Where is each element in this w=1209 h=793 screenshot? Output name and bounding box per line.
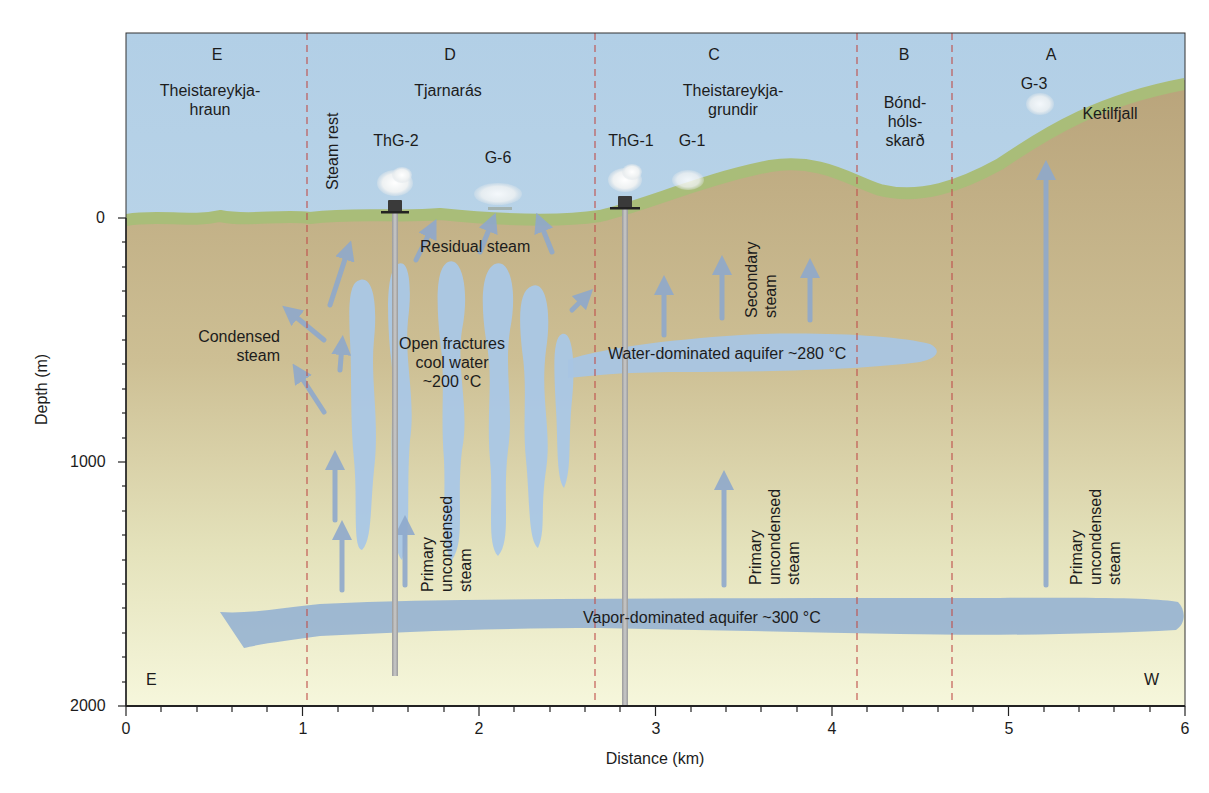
x-tick-3: 3 (652, 720, 661, 738)
well-label-thg-2: ThG-2 (373, 131, 418, 150)
condensed-steam-label: Condensed steam (176, 327, 280, 365)
y-tick-0: 0 (96, 209, 105, 227)
fumarole-label-g-6: G-6 (485, 148, 512, 167)
water-aquifer-label: Water-dominated aquifer ~280 °C (608, 344, 846, 363)
x-axis-ticks (126, 706, 1185, 716)
zone-name-c: Theistareykja- grundir (683, 81, 783, 119)
direction-east: E (146, 670, 157, 689)
x-tick-5: 5 (1005, 720, 1014, 738)
steam-rest-label: Steam rest (323, 113, 342, 190)
direction-west: W (1144, 670, 1159, 689)
x-tick-0: 0 (122, 720, 131, 738)
fumarole-label-g-1: G-1 (679, 131, 706, 150)
y-tick-1000: 1000 (70, 453, 106, 471)
x-tick-1: 1 (299, 720, 308, 738)
x-tick-4: 4 (828, 720, 837, 738)
x-axis-title: Distance (km) (606, 750, 705, 768)
primary-steam-label-3: Primary uncondensed steam (1067, 489, 1124, 585)
y-tick-2000: 2000 (70, 697, 106, 715)
primary-steam-label-2: Primary uncondensed steam (746, 489, 803, 585)
zone-name-b: Bónd- hóls- skarð (884, 93, 927, 150)
zone-letter-a: A (1046, 45, 1057, 64)
residual-steam-label: Residual steam (420, 237, 530, 256)
x-tick-2: 2 (475, 720, 484, 738)
zone-name-d: Tjarnarás (414, 81, 482, 100)
zone-letter-d: D (444, 45, 456, 64)
secondary-steam-label: Secondary steam (742, 242, 780, 319)
x-tick-6: 6 (1181, 720, 1190, 738)
fumarole-label-g-3: G-3 (1021, 74, 1048, 93)
zone-name-a: Ketilfjall (1082, 104, 1137, 123)
y-axis-title: Depth (m) (33, 354, 51, 425)
zone-letter-c: C (708, 45, 720, 64)
vapor-aquifer-label: Vapor-dominated aquifer ~300 °C (583, 608, 821, 627)
primary-steam-label-1: Primary uncondensed steam (418, 496, 475, 592)
well-label-thg-1: ThG-1 (608, 131, 653, 150)
zone-name-e: Theistareykja- hraun (160, 81, 260, 119)
zone-letter-b: B (899, 45, 910, 64)
y-axis-ticks (118, 218, 126, 706)
zone-letter-e: E (212, 45, 223, 64)
open-fractures-label: Open fractures cool water ~200 °C (399, 334, 505, 391)
